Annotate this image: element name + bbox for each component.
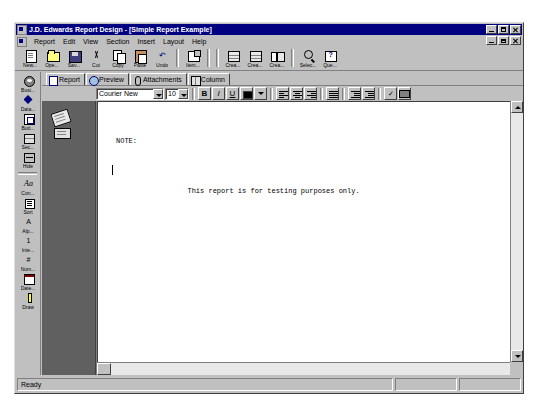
business-view-icon <box>22 75 35 87</box>
align-right-icon <box>307 91 316 98</box>
tab-column[interactable]: Column <box>188 73 230 85</box>
copy-button[interactable]: Copy <box>107 49 129 68</box>
spell-check-button[interactable]: ✓ <box>384 87 397 100</box>
window-controls <box>486 25 521 34</box>
bullet-list-button[interactable] <box>326 87 339 100</box>
query-button[interactable]: Que... <box>319 49 341 68</box>
new-button[interactable]: New... <box>19 49 41 68</box>
text-color-button[interactable] <box>240 87 253 100</box>
italic-button[interactable]: I <box>212 87 225 100</box>
toolbar-separator <box>216 49 219 67</box>
bullet-list-icon <box>329 91 338 98</box>
sidebar-label-business-view: Busi... <box>21 87 35 93</box>
align-center-button[interactable] <box>290 87 303 100</box>
document-line-2: This report is for testing purposes only… <box>116 166 510 206</box>
attachment-text-icon[interactable] <box>54 128 71 139</box>
decrease-indent-button[interactable] <box>348 87 361 100</box>
align-right-button[interactable] <box>304 87 317 100</box>
application-icon <box>17 25 27 35</box>
cut-button[interactable]: Cut <box>85 49 107 68</box>
undo-button-label: Undo <box>156 62 168 68</box>
vertical-scrollbar[interactable] <box>510 101 523 362</box>
minimize-button[interactable] <box>486 25 497 34</box>
toolbar-separator <box>176 49 179 67</box>
select-button[interactable]: Selec... <box>297 49 319 68</box>
sidebar-item-business-view[interactable]: Busi... <box>15 75 41 93</box>
create-tabular-section-icon <box>270 49 285 62</box>
mdi-minimize-button[interactable] <box>486 36 497 45</box>
save-button[interactable]: Sav... <box>63 49 85 68</box>
window-title: J.D. Edwards Report Design - [Simple Rep… <box>29 25 486 34</box>
title-bar[interactable]: J.D. Edwards Report Design - [Simple Rep… <box>16 24 522 35</box>
menu-bar: Report Edit View Section Insert Layout H… <box>15 35 523 47</box>
print-button[interactable] <box>398 87 411 100</box>
close-button[interactable] <box>510 25 521 34</box>
mdi-close-button[interactable] <box>510 36 521 45</box>
create-columnar-section-button[interactable]: Crea... <box>222 49 244 68</box>
sidebar-item-data-dictionary[interactable]: Data... <box>15 94 41 112</box>
menu-item-report[interactable]: Report <box>30 37 59 46</box>
menu-item-view[interactable]: View <box>79 37 102 46</box>
sidebar-item-date-variable[interactable]: Date... <box>15 273 41 291</box>
sidebar-item-draw[interactable]: Draw <box>15 292 41 310</box>
undo-button[interactable]: ↶ Undo <box>151 49 173 68</box>
menu-item-section[interactable]: Section <box>102 37 133 46</box>
tab-attachments-label: Attachments <box>143 76 182 83</box>
font-size-value: 10 <box>168 89 178 98</box>
sidebar-item-integer-variable[interactable]: 1 Inte... <box>15 235 41 253</box>
tab-attachments[interactable]: Attachments <box>130 73 187 85</box>
horizontal-scrollbar[interactable] <box>97 362 510 375</box>
format-separator <box>378 88 381 100</box>
tab-column-label: Column <box>201 76 225 83</box>
menu-item-insert[interactable]: Insert <box>133 37 159 46</box>
sidebar-item-numeric-variable[interactable]: # Num... <box>15 254 41 272</box>
menu-item-layout[interactable]: Layout <box>159 37 188 46</box>
decrease-indent-icon <box>351 91 360 98</box>
sidebar-item-alpha-variable[interactable]: A Alp... <box>15 216 41 234</box>
sidebar-label-alpha: Alp... <box>22 228 33 234</box>
create-group-section-button[interactable]: Crea... <box>244 49 266 68</box>
open-button-label: Ope... <box>45 62 59 68</box>
item-properties-button[interactable]: Item... <box>182 49 204 68</box>
sidebar-item-font[interactable]: Aa Con... <box>15 178 41 196</box>
sidebar-label-constant: Con... <box>21 190 34 196</box>
font-size-combo[interactable]: 10 <box>165 88 189 100</box>
document-icon[interactable] <box>17 37 27 47</box>
document-line-1: NOTE: <box>116 136 510 146</box>
underline-button[interactable]: U <box>226 87 239 100</box>
chevron-down-icon[interactable] <box>153 89 163 99</box>
attachment-note-icon[interactable] <box>50 109 71 128</box>
align-left-button[interactable] <box>276 87 289 100</box>
alpha-variable-icon: A <box>22 216 35 228</box>
mdi-restore-button[interactable] <box>498 36 509 45</box>
chevron-down-icon[interactable] <box>178 89 188 99</box>
tab-preview[interactable]: Preview <box>86 73 129 85</box>
tab-report[interactable]: Report <box>46 73 85 85</box>
menu-item-edit[interactable]: Edit <box>59 37 79 46</box>
sidebar-item-sort[interactable]: Sort <box>15 197 41 215</box>
open-button[interactable]: Ope... <box>41 49 63 68</box>
attachment-text-editor[interactable]: NOTE: This report is for testing purpose… <box>97 101 510 362</box>
paste-button[interactable]: Paste <box>129 49 151 68</box>
sidebar-item-button[interactable]: Butt... <box>15 113 41 131</box>
create-tabular-section-button[interactable]: Crea... <box>266 49 288 68</box>
maximize-button[interactable] <box>498 25 509 34</box>
numeric-variable-icon: # <box>22 254 35 266</box>
item-button-label: Item... <box>186 62 200 68</box>
text-color-dropdown[interactable] <box>254 87 267 100</box>
sidebar-item-hide[interactable]: Hide <box>15 151 41 169</box>
application-window: J.D. Edwards Report Design - [Simple Rep… <box>14 22 524 394</box>
scroll-up-button[interactable] <box>511 101 523 113</box>
status-pane-2 <box>395 378 457 391</box>
document-tab-strip: Report Preview Attachments Column <box>42 72 523 86</box>
scroll-down-button[interactable] <box>511 350 523 362</box>
align-center-icon <box>293 91 302 98</box>
horizontal-scroll-thumb[interactable] <box>97 363 111 375</box>
sidebar-separator <box>18 172 37 175</box>
menu-item-help[interactable]: Help <box>188 37 210 46</box>
increase-indent-button[interactable] <box>362 87 375 100</box>
sidebar-item-section[interactable]: Sec... <box>15 132 41 150</box>
font-name-combo[interactable]: Courier New <box>96 88 164 100</box>
bold-button[interactable]: B <box>198 87 211 100</box>
sidebar-label-numeric: Num... <box>21 266 36 272</box>
